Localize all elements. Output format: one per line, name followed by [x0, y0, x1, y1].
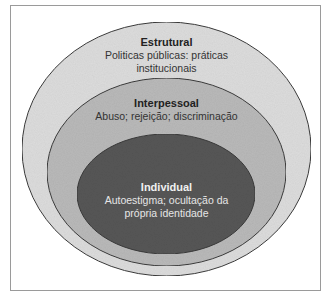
estrutural-label: Estrutural Politicas públicas: práticas …: [0, 35, 333, 75]
individual-description: Autoestigma; ocultação da própria identi…: [102, 194, 232, 220]
individual-label: Individual Autoestigma; ocultação da pró…: [0, 180, 333, 220]
interpessoal-title: Interpessoal: [0, 96, 333, 110]
individual-title: Individual: [0, 180, 333, 194]
interpessoal-description: Abuso; rejeição; discriminação: [0, 110, 333, 123]
estrutural-description: Politicas públicas: práticas institucion…: [97, 49, 237, 75]
interpessoal-label: Interpessoal Abuso; rejeição; discrimina…: [0, 96, 333, 123]
estrutural-title: Estrutural: [0, 35, 333, 49]
